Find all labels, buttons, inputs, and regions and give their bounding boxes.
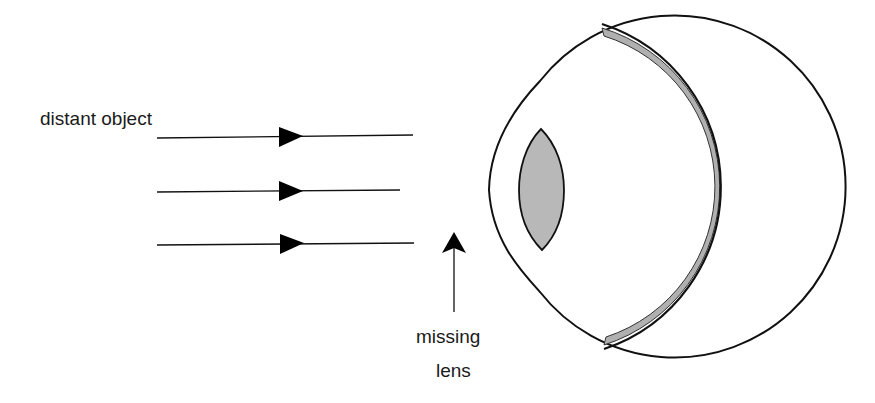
- missing-label: missing: [416, 327, 480, 346]
- ray-arrowheads: [279, 127, 304, 254]
- distant-object-label: distant object: [40, 109, 152, 128]
- ray-middle: [157, 190, 400, 192]
- missing-lens-pointer: [442, 232, 466, 312]
- arrowhead-icon: [280, 234, 304, 254]
- arrowhead-icon: [279, 127, 303, 147]
- arrowhead-icon: [279, 181, 303, 201]
- lens-label: lens: [436, 361, 471, 380]
